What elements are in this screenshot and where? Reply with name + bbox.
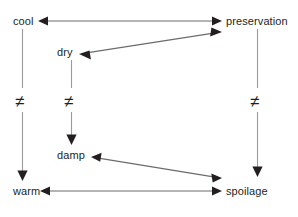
node-label-spoilage: spoilage <box>226 185 268 197</box>
arrowhead-down-damp <box>66 135 76 146</box>
node-label-preservation: preservation <box>226 15 288 27</box>
arrowhead-down-warm <box>17 171 27 182</box>
edge-damp-spoilage <box>91 153 222 183</box>
arrowhead-left-cool <box>38 16 48 25</box>
node-label-dry: dry <box>57 46 73 58</box>
arrowhead-right-spoilage-bottom <box>212 186 222 195</box>
arrowhead-left-dry <box>79 50 91 59</box>
arrowhead-right-preservation-diag <box>210 28 222 37</box>
not-equal-symbol-preservation-spoilage: ≠ <box>250 93 259 110</box>
diagram-canvas: cool preservation dry damp warm spoilage… <box>0 0 298 217</box>
node-label-cool: cool <box>13 15 34 27</box>
edge-dry-preservation-line <box>88 33 212 52</box>
node-label-warm: warm <box>13 185 40 197</box>
edge-warm-spoilage <box>40 186 222 195</box>
edge-damp-spoilage-line <box>100 158 212 176</box>
edge-cool-preservation <box>38 16 222 25</box>
edge-dry-preservation <box>79 28 222 60</box>
arrowhead-right-preservation-top <box>212 16 222 25</box>
not-equal-symbol-cool-warm: ≠ <box>15 93 24 110</box>
arrowhead-down-spoilage <box>252 167 262 178</box>
arrowhead-right-spoilage-diag <box>211 173 222 182</box>
arrowhead-left-warm <box>40 186 50 195</box>
not-equal-symbol-dry-damp: ≠ <box>64 93 73 110</box>
arrowhead-left-damp <box>91 153 102 162</box>
node-label-damp: damp <box>57 149 85 161</box>
